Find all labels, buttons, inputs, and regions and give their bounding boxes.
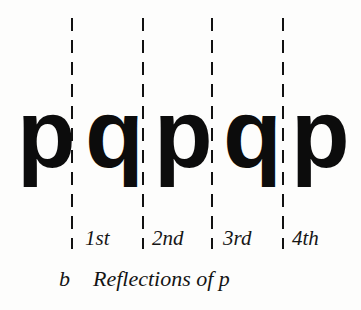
- glyph-reflection-3: p: [223, 86, 282, 182]
- glyph-reflection-1: p: [85, 86, 144, 182]
- glyph-reflection-4: p: [291, 86, 350, 182]
- ordinal-row: 1st 2nd 3rd 4th: [0, 226, 361, 252]
- ordinal-label-2nd: 2nd: [152, 226, 184, 250]
- glyph-original-p: p: [17, 86, 76, 182]
- caption-part-title: Reflections of p: [93, 266, 230, 292]
- figure-caption: b Reflections of p: [0, 266, 361, 296]
- glyph-row: p p p p p: [0, 86, 361, 182]
- glyph-reflection-2: p: [154, 86, 213, 182]
- caption-part-label: b: [59, 266, 70, 292]
- ordinal-label-1st: 1st: [85, 226, 110, 250]
- reflections-figure: p p p p p 1st 2nd 3rd 4th b Reflections …: [0, 0, 361, 310]
- ordinal-label-4th: 4th: [292, 226, 319, 250]
- ordinal-label-3rd: 3rd: [223, 226, 251, 250]
